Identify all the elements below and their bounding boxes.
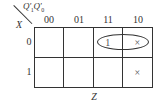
column-header-11: 11 (93, 14, 123, 25)
row-variable-label: X (16, 19, 22, 30)
column-header-01: 01 (64, 14, 94, 25)
row-header-0: 0 (24, 36, 34, 47)
output-label: Z (88, 91, 100, 102)
row-header-1: 1 (24, 66, 34, 77)
cell-r1-c10: × (123, 58, 152, 88)
group-oval-row0 (97, 34, 149, 50)
column-header-10: 10 (123, 14, 153, 25)
cell-r1-c00 (35, 58, 64, 88)
cell-r0-c00 (35, 28, 64, 58)
cell-r0-c01 (64, 28, 93, 58)
column-header-00: 00 (34, 14, 64, 25)
column-variable-label: Q'1Q'0 (23, 1, 44, 13)
cell-r1-c11 (94, 58, 123, 88)
cell-r1-c01 (64, 58, 93, 88)
